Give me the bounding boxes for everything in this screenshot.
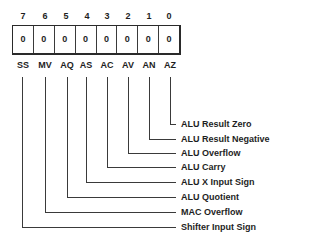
leader-line-as [87,77,177,183]
description-az: ALU Result Zero [181,118,252,130]
leader-line-mv [46,77,177,213]
description-ss: Shifter Input Sign [181,221,256,233]
description-aq: ALU Quotient [181,191,239,203]
description-an: ALU Result Negative [181,133,270,145]
description-av: ALU Overflow [181,147,241,159]
leader-line-av [129,77,177,154]
leader-line-aq [68,77,177,198]
leader-line-az [171,77,177,125]
leader-line-an [150,77,177,140]
description-mv: MAC Overflow [181,206,243,218]
description-as: ALU X Input Sign [181,176,255,188]
description-ac: ALU Carry [181,161,226,173]
